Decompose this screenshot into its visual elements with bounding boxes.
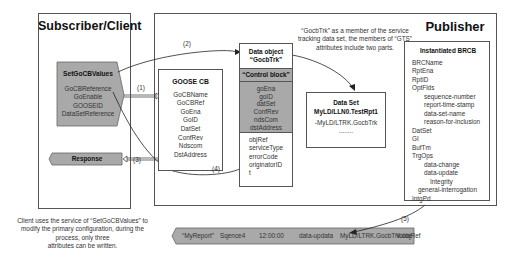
caption-line: Client uses the service of “SetGoCBValue…	[10, 217, 155, 225]
caption-line: modify the primary configuration, during…	[10, 225, 155, 233]
brcb-field: general-interrogation	[412, 186, 489, 195]
data-object-title: Data object	[240, 48, 292, 56]
brcb-box: Instantiated BRCB BRCNameRptEnaRptIDOptF…	[404, 41, 490, 201]
goose-cb-box: GOOSE CB GoCBName GoCBRef GoEna GoID Dat…	[158, 69, 223, 171]
goose-cb-item: GoID	[159, 116, 222, 125]
brcb-field: data-change	[412, 161, 489, 170]
brcb-field: data-set-name	[412, 110, 489, 119]
brcb-field: GI	[412, 135, 489, 144]
report-field-value: Value	[396, 232, 412, 240]
goose-cb-item: DstAddress	[159, 151, 222, 160]
data-set-box: Data Set MyLD/LLN0.TestRpt1 -MyLD/LTRK.G…	[306, 92, 386, 148]
cb-field: datSet	[240, 100, 292, 108]
goose-cb-item: GoCBRef	[159, 99, 222, 108]
note-line: tracking data set, the members of “GTS”	[290, 35, 420, 43]
report-bar: “MyReport” Sqence4 12:00:00 data-updata …	[176, 228, 414, 244]
set-value-item: GoEnable	[57, 93, 119, 102]
report-field-id: “MyReport”	[182, 232, 214, 240]
report-field-sequence: Sqence4	[220, 232, 245, 240]
brcb-field: sequence-number	[412, 93, 489, 102]
data-object-box: Data object “GocbTrk” “Control block” go…	[239, 43, 293, 187]
brcb-field: RptID	[412, 76, 489, 85]
brcb-title: Instantiated BRCB	[405, 47, 491, 56]
brcb-field: BufTm	[412, 144, 489, 153]
brcb-field: IntgPd	[412, 195, 489, 204]
set-value-item: GOOSEID	[57, 102, 119, 111]
arrow-label-5: (5)	[401, 215, 409, 223]
caption-line: attributes can be written.	[10, 242, 155, 250]
subscriber-caption: Client uses the service of “SetGoCBValue…	[10, 217, 155, 250]
arrow-label-1: (1)	[137, 84, 145, 92]
goose-cb-title: GOOSE CB	[159, 78, 222, 87]
brcb-field: RptEna	[412, 67, 489, 76]
report-field-time: 12:00:00	[259, 232, 284, 240]
data-object-name: “GocbTrk”	[240, 56, 292, 64]
extra-field: errorCode	[249, 153, 292, 161]
goose-cb-item: GoEna	[159, 108, 222, 117]
set-value-item: DataSetReference	[57, 110, 119, 119]
brcb-field: Integrity	[412, 178, 489, 187]
goose-cb-item: Ndscom	[159, 142, 222, 151]
control-block-label: “Control block”	[240, 69, 292, 81]
cb-field: ndsCom	[240, 116, 292, 124]
report-field-reason: data-updata	[299, 232, 333, 240]
brcb-field: BRCName	[412, 59, 489, 68]
brcb-field: report-time-stamp	[412, 101, 489, 110]
brcb-field: TrgOps	[412, 152, 489, 161]
brcb-field: reason-for-inclusion	[412, 118, 489, 127]
arrow-label-2: (2)	[183, 40, 191, 48]
set-gocb-values-shape: SetGoCBValues GoCBReference GoEnable GOO…	[57, 62, 119, 126]
brcb-field: DatSet	[412, 127, 489, 136]
goose-cb-item: GoCBName	[159, 91, 222, 100]
goose-cb-item: ConfRev	[159, 134, 222, 143]
cb-field: ConfRev	[240, 108, 292, 116]
gocbtrk-note: “GocbTrk” as a member of the service tra…	[290, 27, 420, 52]
caption-line: process, only three	[10, 234, 155, 242]
response-label: Response	[52, 154, 122, 164]
control-block-fields: goEna goID datSet ConfRev ndsCom dstAddr…	[240, 82, 292, 133]
brcb-field: OptFlds	[412, 84, 489, 93]
goose-cb-item: DatSet	[159, 125, 222, 134]
extra-field: serviceType	[249, 144, 292, 152]
brcb-field: data-update	[412, 169, 489, 178]
extra-field: originatorID	[249, 161, 292, 169]
data-set-ellipsis: ........	[307, 128, 385, 134]
cb-field: dstAddress	[240, 124, 292, 132]
set-gocb-values-title: SetGoCBValues	[57, 70, 119, 79]
cb-field: goID	[240, 93, 292, 101]
arrow-label-4: (4)	[212, 165, 220, 173]
data-set-title: Data Set	[307, 99, 385, 108]
arrow-label-3: (3)	[133, 156, 141, 164]
note-line: “GocbTrk” as a member of the service	[290, 27, 420, 35]
cb-field: goEna	[240, 85, 292, 93]
brcb-field-list: BRCNameRptEnaRptIDOptFldssequence-number…	[412, 59, 489, 204]
extra-field: objRef	[249, 136, 292, 144]
extra-field: t	[249, 169, 292, 177]
set-value-item: GoCBReference	[57, 85, 119, 94]
note-line: attributes include two parts.	[290, 44, 420, 52]
data-set-name: MyLD/LLN0.TestRpt1	[307, 108, 385, 117]
